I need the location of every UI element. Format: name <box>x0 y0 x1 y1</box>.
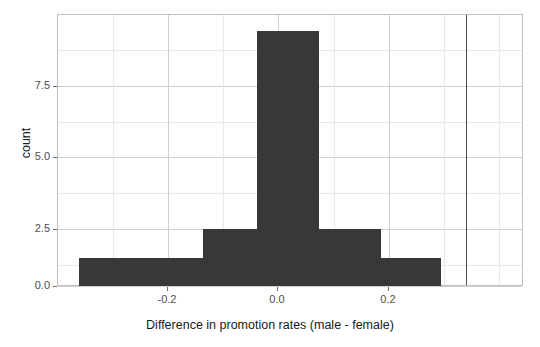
y-axis-tick-label: 7.5 <box>10 80 50 91</box>
x-tick-mark <box>167 287 168 291</box>
histogram-bar <box>203 229 257 286</box>
y-axis-tick-label: 2.5 <box>10 223 50 234</box>
gridline-x-minor-0.3 <box>444 15 445 285</box>
histogram-bar <box>319 229 381 286</box>
y-tick-mark <box>53 86 57 87</box>
x-tick-mark <box>277 287 278 291</box>
y-tick-mark <box>53 286 57 287</box>
gridline-x-minor-0.4 <box>499 15 500 285</box>
x-axis-tick-label: 0.0 <box>247 294 307 305</box>
x-axis-tick-label: -0.2 <box>137 294 197 305</box>
histogram-bar <box>141 258 203 286</box>
histogram-bar <box>381 258 441 286</box>
gridline-y-major-0.0 <box>58 286 522 287</box>
gridline-x-minor--0.3 <box>113 15 114 285</box>
x-axis-title: Difference in promotion rates (male - fe… <box>0 318 540 332</box>
x-axis-tick-label: 0.2 <box>358 294 418 305</box>
y-tick-mark <box>53 229 57 230</box>
x-tick-mark <box>388 287 389 291</box>
histogram-bar <box>257 31 319 286</box>
y-axis-title: count <box>19 93 33 193</box>
plot-panel <box>57 14 523 286</box>
y-tick-mark <box>53 157 57 158</box>
observed-statistic-line <box>466 15 467 285</box>
gridline-x-major-0.2 <box>389 15 390 285</box>
gridline-x-major--0.2 <box>168 15 169 285</box>
chart-canvas: 0.0 2.5 5.0 7.5 -0.2 0.0 0.2 Difference … <box>0 0 540 347</box>
histogram-bar <box>79 258 141 286</box>
y-axis-tick-label: 0.0 <box>10 280 50 291</box>
